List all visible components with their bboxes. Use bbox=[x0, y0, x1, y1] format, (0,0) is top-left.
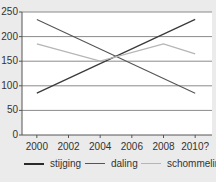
line-chart: 050100150200250 200020022004200620082010… bbox=[0, 0, 216, 182]
legend-item-daling: daling bbox=[85, 158, 138, 169]
y-tick-label: 100 bbox=[1, 80, 18, 91]
x-tick-label: 2010? bbox=[181, 141, 209, 152]
y-tick-label: 50 bbox=[7, 104, 19, 115]
legend: stijging daling schommeling bbox=[0, 158, 216, 174]
legend-swatch-daling bbox=[85, 163, 105, 164]
x-tick-label: 2000 bbox=[26, 141, 49, 152]
y-axis-ticks: 050100150200250 bbox=[1, 6, 22, 140]
x-tick-label: 2002 bbox=[57, 141, 80, 152]
plot-area bbox=[22, 12, 212, 135]
x-tick-label: 2006 bbox=[121, 141, 144, 152]
y-tick-label: 150 bbox=[1, 55, 18, 66]
legend-label: stijging bbox=[50, 158, 81, 169]
y-tick-label: 0 bbox=[12, 129, 18, 140]
legend-swatch-stijging bbox=[24, 163, 44, 165]
legend-item-schommeling: schommeling bbox=[141, 158, 216, 169]
legend-label: daling bbox=[111, 158, 138, 169]
x-axis-ticks: 200020022004200620082010? bbox=[26, 135, 210, 152]
y-tick-label: 250 bbox=[1, 6, 18, 17]
x-tick-label: 2004 bbox=[89, 141, 112, 152]
legend-label: schommeling bbox=[167, 158, 216, 169]
legend-swatch-schommeling bbox=[141, 163, 161, 164]
y-tick-label: 200 bbox=[1, 31, 18, 42]
x-tick-label: 2008 bbox=[152, 141, 175, 152]
legend-item-stijging: stijging bbox=[24, 158, 81, 169]
